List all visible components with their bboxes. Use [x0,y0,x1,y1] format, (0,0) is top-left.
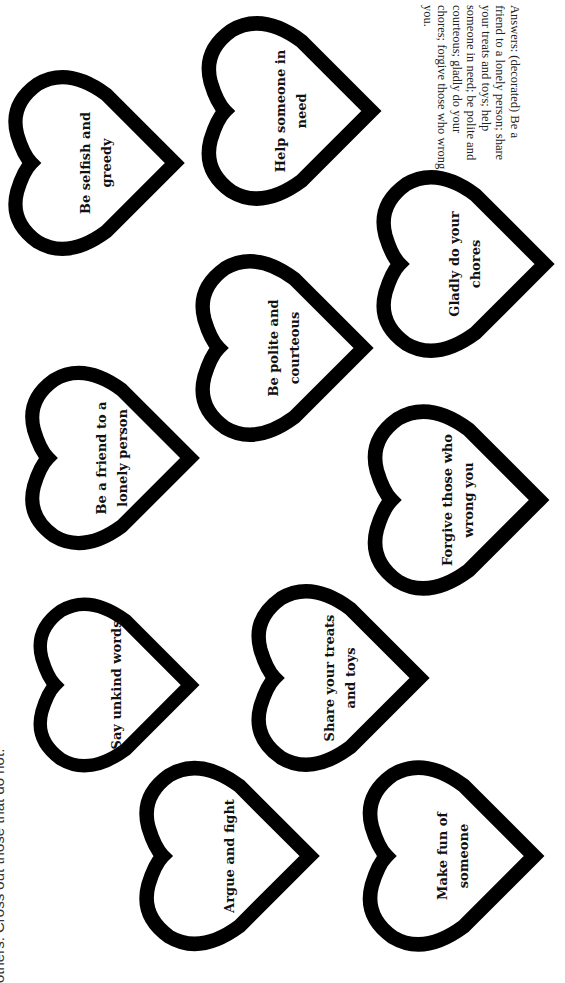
heart-card-make-fun-of-someone[interactable]: Make fun of someone [358,752,548,960]
heart-card-forgive-those-who-wrong-you[interactable]: Forgive those who wrong you [358,396,558,604]
answers-text: Answers: (decorated) Be a friend to a lo… [420,5,522,170]
heart-card-be-selfish-and-greedy[interactable]: Be selfish and greedy [5,62,187,264]
heart-label: Gladly do your chores [444,211,486,316]
heart-label: Share your treats and toys [319,615,361,742]
heart-card-be-polite-and-courteous[interactable]: Be polite and courteous [192,246,376,450]
heart-card-gladly-do-your-chores[interactable]: Gladly do your chores [372,162,558,366]
heart-label: Say unkind words [106,621,127,750]
heart-label: Argue and fight [219,799,240,913]
heart-label: Be a friend to a lonely person [91,401,133,514]
heart-card-help-someone-in-need[interactable]: Help someone in need [198,8,384,214]
heart-card-share-your-treats-and-toys[interactable]: Share your treats and toys [248,576,432,780]
heart-label: Be selfish and greedy [75,112,117,214]
heart-label: Be polite and courteous [263,299,305,396]
heart-card-be-a-friend-to-a-lonely-person[interactable]: Be a friend to a lonely person [22,356,202,560]
heart-label: Forgive those who wrong you [437,434,479,566]
heart-label: Help someone in need [270,50,312,172]
heart-card-argue-and-fight[interactable]: Argue and fight [136,752,322,960]
heart-label: Make fun of someone [432,812,474,900]
instruction-text: others. Cross out those that do not. [0,749,7,983]
